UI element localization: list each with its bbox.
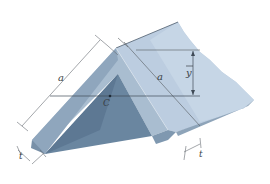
label-ybar: y <box>185 67 192 78</box>
centroid-point <box>109 95 112 98</box>
label-t-right: t <box>199 149 203 159</box>
label-a-right: a <box>157 71 163 82</box>
angle-section-diagram: a a C y t t <box>0 0 270 184</box>
label-centroid: C <box>103 98 110 108</box>
label-t-left: t <box>19 151 23 161</box>
label-a-left: a <box>58 72 64 83</box>
